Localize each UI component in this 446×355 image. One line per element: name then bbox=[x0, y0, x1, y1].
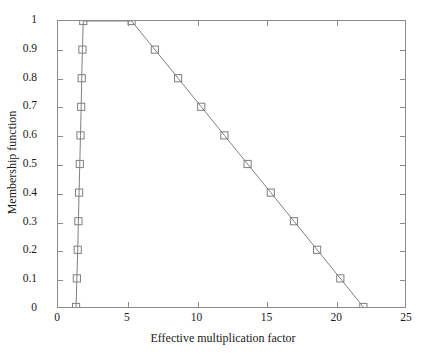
x-tick-mark bbox=[267, 302, 268, 307]
y-tick-mark bbox=[58, 50, 63, 51]
x-tick-mark bbox=[128, 302, 129, 307]
y-tick-mark-right bbox=[400, 251, 405, 252]
y-tick-mark-right bbox=[400, 79, 405, 80]
y-tick-mark-right bbox=[400, 136, 405, 137]
y-tick-mark bbox=[58, 280, 63, 281]
x-tick-mark-top bbox=[267, 21, 268, 26]
membership-function-markers bbox=[72, 21, 366, 307]
y-tick-mark bbox=[58, 79, 63, 80]
y-tick-mark-right bbox=[400, 165, 405, 166]
x-tick-label: 15 bbox=[246, 312, 286, 324]
chart-figure: 00.10.20.30.40.50.60.70.80.91 0510152025… bbox=[0, 0, 446, 355]
x-tick-label: 0 bbox=[37, 312, 77, 324]
x-tick-mark-top bbox=[128, 21, 129, 26]
y-tick-mark bbox=[58, 251, 63, 252]
y-tick-mark bbox=[58, 107, 63, 108]
x-tick-label: 10 bbox=[177, 312, 217, 324]
y-tick-mark bbox=[58, 136, 63, 137]
membership-function-line bbox=[76, 21, 363, 307]
x-tick-label: 20 bbox=[316, 312, 356, 324]
x-tick-label: 25 bbox=[386, 312, 426, 324]
plot-series-svg bbox=[58, 21, 405, 307]
x-tick-mark bbox=[198, 302, 199, 307]
y-axis-title-wrap: Membership function bbox=[2, 0, 22, 330]
x-tick-label: 5 bbox=[107, 312, 147, 324]
y-tick-mark-right bbox=[400, 107, 405, 108]
x-tick-mark-top bbox=[337, 21, 338, 26]
y-tick-mark-right bbox=[400, 50, 405, 51]
y-tick-mark-right bbox=[400, 223, 405, 224]
x-axis-title: Effective multiplication factor bbox=[0, 331, 446, 346]
y-axis-title: Membership function bbox=[5, 58, 20, 268]
y-tick-mark bbox=[58, 223, 63, 224]
y-tick-mark bbox=[58, 194, 63, 195]
plot-area bbox=[57, 20, 406, 308]
x-tick-mark-top bbox=[198, 21, 199, 26]
y-tick-mark bbox=[58, 165, 63, 166]
y-tick-mark-right bbox=[400, 280, 405, 281]
y-tick-mark-right bbox=[400, 194, 405, 195]
x-tick-mark bbox=[337, 302, 338, 307]
